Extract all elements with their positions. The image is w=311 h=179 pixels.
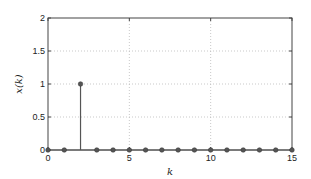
- stem-marker: [192, 148, 197, 153]
- x-tick-label: 10: [206, 153, 216, 163]
- stem-marker: [176, 148, 181, 153]
- stem-marker: [127, 148, 132, 153]
- y-tick-label: 1.5: [32, 46, 45, 56]
- stem-marker: [257, 148, 262, 153]
- stem-series: [46, 82, 295, 153]
- y-tick-label: 0.5: [32, 112, 45, 122]
- stem-marker: [46, 148, 51, 153]
- y-tick-label: 1: [40, 79, 45, 89]
- stem-marker: [143, 148, 148, 153]
- y-tick-label: 2: [40, 13, 45, 23]
- stem-marker: [241, 148, 246, 153]
- stem-marker: [111, 148, 116, 153]
- x-tick-label: 0: [45, 153, 50, 163]
- x-axis-label: k: [167, 166, 173, 177]
- y-tick-label: 0: [40, 145, 45, 155]
- grid-lines: [48, 18, 292, 150]
- stem-marker: [273, 148, 278, 153]
- stem-marker: [62, 148, 67, 153]
- stem-marker: [290, 148, 295, 153]
- stem-chart: 05101500.511.52 k x(k): [0, 0, 311, 179]
- stem-marker: [225, 148, 230, 153]
- y-axis-label: x(k): [13, 74, 24, 94]
- stem-marker: [160, 148, 165, 153]
- x-tick-label: 15: [287, 153, 297, 163]
- stem-marker: [95, 148, 100, 153]
- x-tick-label: 5: [127, 153, 132, 163]
- stem-marker: [78, 82, 83, 87]
- axis-ticks: 05101500.511.52: [32, 13, 297, 163]
- stem-marker: [208, 148, 213, 153]
